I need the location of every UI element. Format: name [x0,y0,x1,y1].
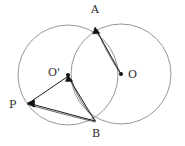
label-point-p: P [9,99,16,110]
label-point-o: O [128,69,137,80]
label-point-o-prime: O' [48,67,60,78]
diagram-canvas [0,0,185,146]
geometry-diagram: A B O O' P [0,0,185,146]
label-point-a: A [91,4,99,15]
label-point-b: B [92,128,100,139]
point-dot-O [119,72,123,76]
vector-Oprime-to-P [27,76,69,106]
point-dot-Oprime [66,73,70,77]
arrowhead-at-A [93,27,100,34]
